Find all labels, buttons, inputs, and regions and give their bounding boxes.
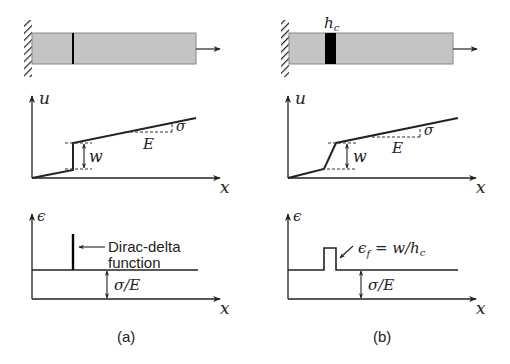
y-axis-label: u	[39, 88, 50, 108]
baseline-label: σ/E	[114, 276, 140, 294]
u-plot-a: u x w σ E	[32, 88, 230, 197]
slope-rise-label: σ	[424, 122, 434, 138]
caption-b: (b)	[373, 328, 391, 345]
annotation-arrow-icon	[340, 246, 353, 258]
y-axis-label: u	[295, 88, 306, 108]
slope-run-label: E	[142, 135, 154, 153]
panel-b: hc u x w σ E ϵ x ϵf = w/hc	[281, 14, 486, 345]
y-axis-label: ϵ	[37, 207, 46, 225]
annotation-line-2: function	[108, 254, 161, 271]
displacement-curve	[32, 118, 196, 178]
bar-b: hc	[281, 14, 477, 77]
crack-band	[325, 33, 336, 64]
diagram-canvas: u x w σ E ϵ x Dirac-delta function σ/E	[0, 0, 510, 364]
wall-hatch-icon	[281, 20, 289, 77]
band-width-label: hc	[324, 14, 340, 33]
bar-body	[32, 33, 196, 64]
x-axis-label: x	[220, 177, 230, 197]
jump-label: w	[89, 147, 103, 166]
bar-a	[24, 20, 220, 77]
annotation-line-1: Dirac-delta	[108, 238, 181, 255]
strain-plot-a: ϵ x Dirac-delta function σ/E	[32, 207, 230, 318]
x-axis-label: x	[476, 177, 486, 197]
caption-a: (a)	[117, 328, 135, 345]
slope-run-label: E	[391, 139, 403, 157]
x-axis-label: x	[476, 298, 486, 318]
u-plot-b: u x w σ E	[288, 88, 486, 197]
jump-label: w	[353, 147, 367, 166]
strain-plot-b: ϵ x ϵf = w/hc σ/E	[288, 207, 486, 318]
y-axis-label: ϵ	[293, 207, 302, 225]
panel-a: u x w σ E ϵ x Dirac-delta function σ/E	[24, 20, 230, 345]
bar-body	[289, 33, 453, 64]
slope-rise-label: σ	[176, 118, 186, 134]
x-axis-label: x	[220, 298, 230, 318]
annotation-formula: ϵf = w/hc	[358, 239, 426, 259]
baseline-label: σ/E	[368, 276, 394, 294]
wall-hatch-icon	[24, 20, 32, 77]
